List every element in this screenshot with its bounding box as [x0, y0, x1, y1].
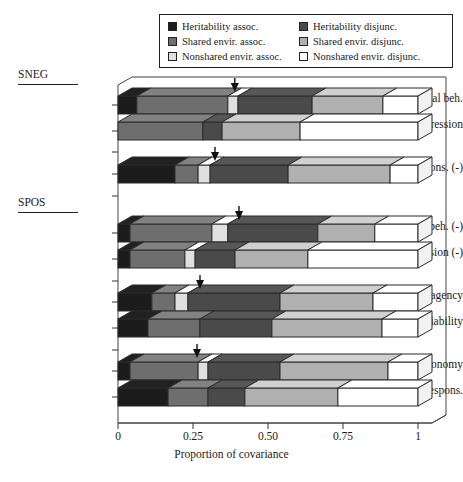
group-rule — [18, 212, 78, 213]
cat-label-social-respons: Social respons. — [359, 384, 463, 397]
cat-label-antisocial-beh-neg: Antisocial beh. (-) — [359, 220, 463, 233]
cat-label-autonomy: Autonomy — [359, 358, 463, 371]
cat-label-cog-agency: Cog. agency — [359, 289, 463, 302]
group-label-spos: SPOS — [18, 196, 46, 209]
cat-label-antisocial-beh: Antisocial beh. — [359, 92, 463, 105]
x-tick-0: 0 — [98, 430, 138, 443]
cat-label-depression: Depression — [359, 118, 463, 131]
cat-label-sociability: Sociability — [359, 315, 463, 328]
x-tick-075: 0.75 — [323, 430, 363, 443]
cat-label-social-respons-neg: Social respons. (-) — [359, 161, 463, 174]
x-tick-050: 0.50 — [248, 430, 288, 443]
x-tick-1: 1 — [398, 430, 438, 443]
cat-label-depression-neg: Depression (-) — [359, 246, 463, 259]
group-rule — [18, 84, 78, 85]
x-axis-title: Proportion of covariance — [0, 448, 463, 461]
plot-frame — [0, 0, 463, 482]
group-label-sneg: SNEG — [18, 68, 48, 81]
chart-plot-area: SNEG SPOS Antisocial beh. Depression Soc… — [0, 0, 463, 482]
x-tick-025: 0.25 — [173, 430, 213, 443]
